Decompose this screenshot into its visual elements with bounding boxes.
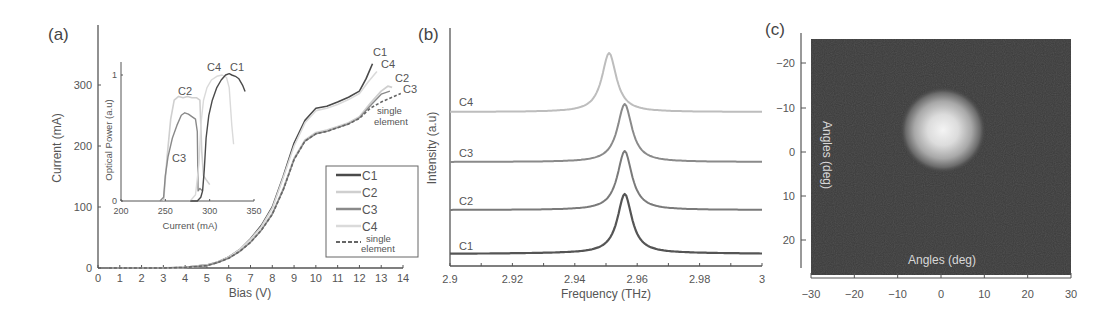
panel-c-xlabel: Angles (deg) <box>908 253 976 267</box>
inset-xtick-label: 350 <box>246 206 261 216</box>
inset-xtick-label: 250 <box>158 206 173 216</box>
panel-b-annotation-c3: C3 <box>459 147 473 159</box>
panel-c-label: (c) <box>765 20 785 39</box>
a-xtick-label: 4 <box>182 272 188 284</box>
a-xtick-label: 9 <box>291 272 297 284</box>
c-xtick-label: 30 <box>1065 288 1077 300</box>
annotation-c4: C4 <box>381 58 395 70</box>
panel-a-xlabel: Bias (V) <box>229 286 272 300</box>
panel-c-ylabel: Angles (deg) <box>820 121 834 189</box>
panel-a: (a) 012345678910111213140100200300 Bias … <box>48 25 418 300</box>
c-ytick-label: 20 <box>783 234 795 246</box>
c-ytick-label: −10 <box>776 102 795 114</box>
a-xtick-label: 8 <box>269 272 275 284</box>
c-xtick-label: 10 <box>978 288 990 300</box>
b-series-c1 <box>450 194 762 254</box>
c-ytick-label: −20 <box>776 57 795 69</box>
panel-b: (b) 2.92.922.942.962.983 Frequency (THz)… <box>418 25 765 301</box>
panel-a-label: (a) <box>48 25 69 44</box>
b-series-c2 <box>450 151 762 210</box>
inset-xtick-label: 200 <box>113 206 128 216</box>
a-xtick-label: 12 <box>353 272 365 284</box>
a-xtick-label: 13 <box>375 272 387 284</box>
a-ytick-label: 300 <box>74 79 92 91</box>
inset-ytick-label: 0 <box>112 196 117 206</box>
a-xtick-label: 7 <box>247 272 253 284</box>
b-xtick-label: 2.94 <box>564 273 585 285</box>
c-xtick-label: −10 <box>888 288 907 300</box>
c-ytick-label: 10 <box>783 190 795 202</box>
b-xtick-label: 3 <box>759 273 765 285</box>
b-series-c3 <box>450 104 762 162</box>
inset-xlabel: Current (mA) <box>163 220 218 231</box>
c-xtick-label: −30 <box>802 288 821 300</box>
panel-b-ylabel: Intensity (a.u) <box>425 112 439 185</box>
a-ytick-label: 100 <box>74 201 92 213</box>
b-xtick-label: 2.92 <box>502 273 523 285</box>
a-xtick-label: 0 <box>95 272 101 284</box>
legend: C1 C2 C3 C4 single element <box>326 166 418 257</box>
inset-axes: 20025030035001 <box>112 60 262 216</box>
panel-b-series <box>450 53 762 254</box>
b-xtick-label: 2.9 <box>442 273 457 285</box>
a-ytick-label: 0 <box>86 262 92 274</box>
panel-c: (c) Angles (deg) Angles (deg) −20−100102… <box>765 20 1077 300</box>
b-series-c4 <box>450 53 762 112</box>
a-ytick-label: 200 <box>74 140 92 152</box>
panel-b-annotation-c1: C1 <box>459 240 473 252</box>
inset-annotation-c1: C1 <box>230 61 244 73</box>
inset-ytick-label: 1 <box>112 70 117 80</box>
c-xtick-label: 0 <box>938 288 944 300</box>
figure: (a) 012345678910111213140100200300 Bias … <box>0 0 1114 319</box>
inset-chart: 20025030035001 Current (mA) Optical Powe… <box>103 60 262 231</box>
inset-annotation-c3: C3 <box>172 152 186 164</box>
annotation-single: single <box>377 105 402 116</box>
a-xtick-label: 10 <box>310 272 322 284</box>
legend-label-c1: C1 <box>362 169 378 183</box>
panel-b-annotation-c4: C4 <box>459 96 473 108</box>
inset-ylabel: Optical Power (a.u) <box>103 99 114 180</box>
b-xtick-label: 2.96 <box>626 273 647 285</box>
inset-annotation-c2: C2 <box>178 85 192 97</box>
legend-label-c4: C4 <box>362 220 378 234</box>
panel-b-annotation-c2: C2 <box>459 195 473 207</box>
a-xtick-label: 2 <box>139 272 145 284</box>
legend-label-c3: C3 <box>362 203 378 217</box>
a-xtick-label: 3 <box>160 272 166 284</box>
a-xtick-label: 6 <box>226 272 232 284</box>
a-xtick-label: 1 <box>117 272 123 284</box>
legend-label-element: element <box>361 243 395 254</box>
b-xtick-label: 2.98 <box>689 273 710 285</box>
panel-b-label: (b) <box>418 25 439 44</box>
c-xtick-label: −20 <box>845 288 864 300</box>
inset-annotation-c4: C4 <box>207 61 221 73</box>
annotation-element: element <box>374 116 408 127</box>
annotation-c1: C1 <box>373 46 387 58</box>
panel-b-xlabel: Frequency (THz) <box>561 287 651 301</box>
a-xtick-label: 5 <box>204 272 210 284</box>
a-xtick-label: 14 <box>397 272 409 284</box>
annotation-c3: C3 <box>403 83 417 95</box>
c-ytick-label: 0 <box>789 146 795 158</box>
beam-spot <box>899 86 987 174</box>
c-xtick-label: 20 <box>1022 288 1034 300</box>
inset-xtick-label: 300 <box>202 206 217 216</box>
a-xtick-label: 11 <box>332 272 343 284</box>
legend-label-c2: C2 <box>362 186 378 200</box>
panel-a-ylabel: Current (mA) <box>50 113 64 182</box>
beam-profile-image: Angles (deg) Angles (deg) <box>811 39 1071 275</box>
